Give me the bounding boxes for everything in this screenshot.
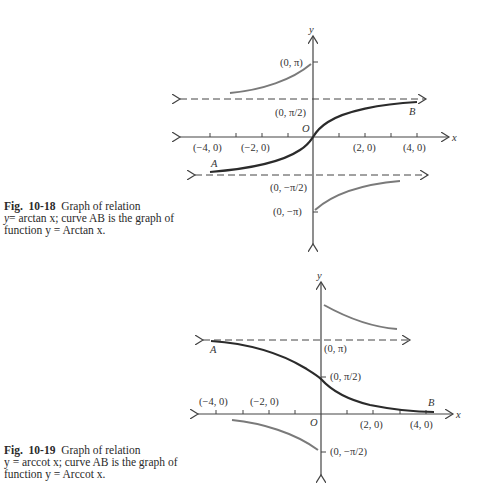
label-x-neg4: (−4, 0) <box>193 142 222 154</box>
label-neg-half-pi: (0, −π/2) <box>330 446 367 458</box>
label-x-neg2: (−2, 0) <box>250 396 279 408</box>
caption-line2: = arctan x; curve AB is the graph of <box>9 212 174 224</box>
figure-arctan: y x O A B (0, π) (0, π/2) (0, −π/2) (0, … <box>180 24 457 244</box>
curve-arccot-upper-branch <box>324 305 397 329</box>
curve-arctan-lower-branch <box>315 181 400 210</box>
curve-arctan-upper-branch <box>230 64 311 93</box>
origin-label: O <box>302 123 310 134</box>
caption-fig-10-18: Fig. 10-18 Graph of relation y= arctan x… <box>4 200 204 236</box>
caption-fig-number: 10-18 <box>29 200 56 212</box>
label-neg-half-pi: (0, −π/2) <box>270 182 307 194</box>
label-x-2: (2, 0) <box>353 142 376 154</box>
label-x-2: (2, 0) <box>360 419 383 431</box>
caption-fig-word: Fig. <box>4 444 23 456</box>
caption-fig-10-19: Fig. 10-19 Graph of relation y = arccot … <box>4 444 204 480</box>
curve-arccot-lower-branch <box>232 420 318 450</box>
label-x-4: (4, 0) <box>410 419 433 431</box>
label-half-pi: (0, π/2) <box>275 107 306 119</box>
figures-canvas: y x O A B (0, π) (0, π/2) (0, −π/2) (0, … <box>0 0 479 504</box>
y-axis-label: y <box>308 24 314 35</box>
x-axis-label: x <box>451 132 457 143</box>
origin-label: O <box>310 417 318 428</box>
point-a-label: A <box>210 158 218 169</box>
label-x-4: (4, 0) <box>403 142 426 154</box>
caption-line2: y = arccot x; curve AB is the graph of <box>4 456 204 468</box>
point-b-label: B <box>428 397 435 408</box>
point-b-label: B <box>409 106 416 117</box>
point-a-label: A <box>209 344 217 355</box>
caption-line1: Graph of relation <box>61 444 140 456</box>
caption-fig-word: Fig. <box>4 200 23 212</box>
label-pi: (0, π) <box>280 57 303 69</box>
caption-line3: function y = Arccot x. <box>4 468 204 480</box>
y-axis-label: y <box>316 270 322 281</box>
label-neg-pi: (0, −π) <box>273 206 302 218</box>
label-x-neg4: (−4, 0) <box>199 396 228 408</box>
label-pi: (0, π) <box>324 343 347 355</box>
x-axis-label: x <box>455 409 461 420</box>
label-half-pi: (0, π/2) <box>330 371 361 383</box>
figure-arccot: y x O A B (0, π) (0, π/2) (0, −π/2) (−4,… <box>198 270 461 475</box>
label-x-neg2: (−2, 0) <box>241 142 270 154</box>
caption-line3: function y = Arctan x. <box>4 224 204 236</box>
caption-fig-number: 10-19 <box>29 444 56 456</box>
caption-line1: Graph of relation <box>61 200 140 212</box>
